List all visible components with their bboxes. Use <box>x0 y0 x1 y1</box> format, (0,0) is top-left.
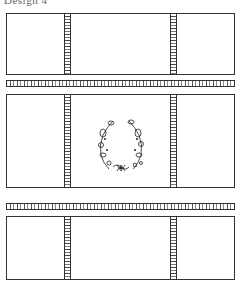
floral-wreath-icon <box>91 117 151 179</box>
panel-bottom <box>6 216 235 280</box>
horizontal-border-strip-1 <box>6 80 235 87</box>
horizontal-border-strip-2 <box>6 203 235 210</box>
panel-top <box>6 13 235 75</box>
design-title: Design 4 <box>4 0 47 6</box>
vertical-border-strip-left <box>64 14 71 74</box>
vertical-border-strip-right <box>170 95 177 187</box>
vertical-border-strip-right <box>170 14 177 74</box>
vertical-border-strip-left <box>64 95 71 187</box>
vertical-border-strip-right <box>170 217 177 279</box>
panel-middle <box>6 94 235 188</box>
vertical-border-strip-left <box>64 217 71 279</box>
